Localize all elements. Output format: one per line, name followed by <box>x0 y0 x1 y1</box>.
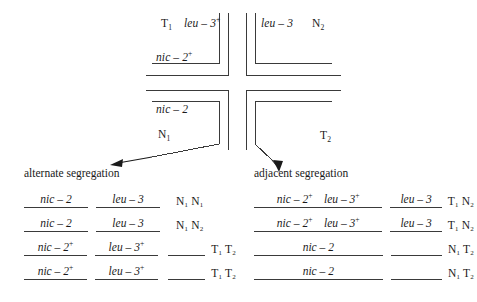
cross-label-nic-2-plus-top-left: nic – 2+ <box>156 52 192 64</box>
alternate-row-0-gene-1: nic – 2 <box>24 192 88 208</box>
chromosome-arm-bottom-left <box>146 90 228 150</box>
cross-label-leu-3-top-right: leu – 3 <box>261 18 293 30</box>
adjacent-segregation-panel: adjacent segregation nic – 2+ leu – 3+ l… <box>254 167 474 280</box>
alternate-row-0-centromeres: N₁ N₁ <box>160 194 204 208</box>
alternate-segregation-heading: alternate segregation <box>24 167 236 180</box>
cross-label-N1: N1 <box>158 129 170 141</box>
adjacent-row-0-genes: nic – 2+ leu – 3+ <box>254 192 382 208</box>
table-row: nic – 2+ leu – 3+ leu – 3 T₁ N₂ <box>254 208 474 232</box>
table-row: nic – 2+ leu – 3+ T₁ T₂ <box>24 232 236 256</box>
cross-label-T1: T1 <box>161 18 172 30</box>
alternate-row-1-gene-2: leu – 3 <box>96 216 160 232</box>
connector-alternate <box>152 144 219 157</box>
adjacent-row-2-genes: nic – 2 <box>254 240 383 256</box>
alternate-row-2-acentric-line <box>168 240 205 256</box>
alternate-row-3-acentric-line <box>168 264 205 280</box>
alternate-row-1-centromeres: N₁ N₂ <box>160 218 204 232</box>
arrow-to-alternate <box>110 157 152 167</box>
alternate-row-3-gene-1: nic – 2+ <box>24 264 87 280</box>
table-row: nic – 2+ leu – 3+ leu – 3 T₁ N₂ <box>254 184 474 208</box>
adjacent-row-2-centromeres: N₁ T₂ <box>442 242 474 256</box>
cross-label-leu-3-plus-top-left: leu – 3+ <box>184 18 220 30</box>
cross-label-N2: N2 <box>312 18 324 30</box>
adjacent-row-1-genes: nic – 2+ leu – 3+ <box>254 216 382 232</box>
adjacent-segregation-heading: adjacent segregation <box>254 167 474 180</box>
alternate-row-2-gene-2: leu – 3+ <box>95 240 158 256</box>
adjacent-row-1-gene-2: leu – 3 <box>390 216 441 232</box>
adjacent-row-1-centromeres: T₁ N₂ <box>442 218 474 232</box>
adjacent-row-0-centromeres: T₁ N₂ <box>442 194 474 208</box>
alternate-row-3-centromeres: T₁ T₂ <box>205 266 236 280</box>
adjacent-row-0-gene-2: leu – 3 <box>390 192 441 208</box>
cross-label-T2: T2 <box>320 130 331 142</box>
alternate-row-0-gene-2: leu – 3 <box>96 192 160 208</box>
table-row: nic – 2 N₁ T₂ <box>254 232 474 256</box>
adjacent-row-3-genes: nic – 2 <box>254 264 383 280</box>
alternate-row-2-gene-1: nic – 2+ <box>24 240 87 256</box>
adjacent-row-3-centromeres: N₁ T₂ <box>442 266 474 280</box>
adjacent-row-3-acentric-line <box>391 264 442 280</box>
cross-label-nic-2-bottom-left: nic – 2 <box>156 104 188 116</box>
table-row: nic – 2 leu – 3 N₁ N₁ <box>24 184 236 208</box>
alternate-row-2-centromeres: T₁ T₂ <box>205 242 236 256</box>
alternate-segregation-panel: alternate segregation nic – 2 leu – 3 N₁… <box>24 167 236 280</box>
table-row: nic – 2 N₁ T₂ <box>254 256 474 280</box>
alternate-row-1-gene-1: nic – 2 <box>24 216 88 232</box>
connector-adjacent <box>255 144 272 160</box>
table-row: nic – 2+ leu – 3+ T₁ T₂ <box>24 256 236 280</box>
adjacent-row-2-acentric-line <box>391 240 442 256</box>
figure-canvas: T1 leu – 3+ nic – 2+ leu – 3 N2 nic – 2 … <box>0 0 477 302</box>
table-row: nic – 2 leu – 3 N₁ N₂ <box>24 208 236 232</box>
alternate-row-3-gene-2: leu – 3+ <box>95 264 158 280</box>
